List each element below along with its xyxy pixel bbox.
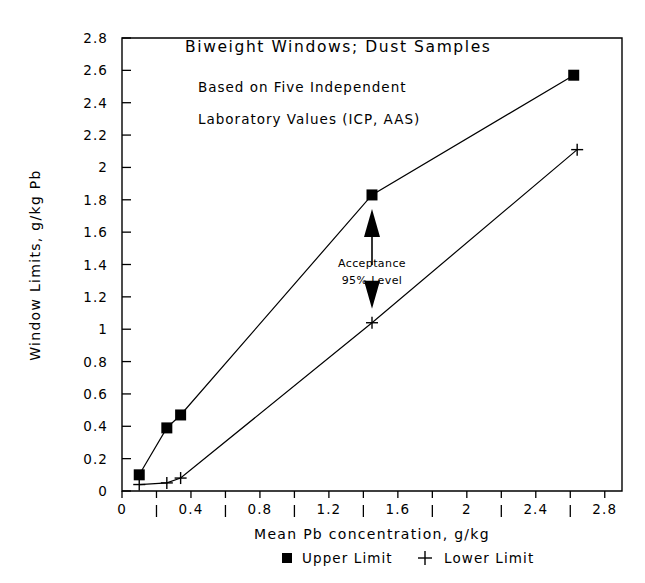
- y-axis-title: Window Limits, g/kg Pb: [27, 169, 43, 361]
- y-tick-label: 2.8: [83, 30, 108, 46]
- y-tick-label: 0.8: [83, 354, 108, 370]
- y-tick-label: 1.2: [83, 289, 108, 305]
- legend-label-upper-limit: Upper Limit: [302, 550, 393, 566]
- y-axis-tick-labels: 00.20.40.60.811.21.41.61.822.22.42.62.8: [83, 30, 108, 499]
- y-tick-label: 0.6: [83, 386, 108, 402]
- data-point-square: [175, 409, 186, 420]
- x-tick-label: 0.8: [248, 501, 273, 517]
- y-tick-label: 1.8: [83, 192, 108, 208]
- x-tick-label: 1.2: [317, 501, 342, 517]
- chart-title: Biweight Windows; Dust Samples: [185, 38, 492, 56]
- y-tick-label: 1.4: [83, 257, 108, 273]
- chart-canvas: 00.40.81.21.622.42.8 00.20.40.60.811.21.…: [0, 0, 645, 583]
- x-tick-label: 2.8: [592, 501, 617, 517]
- legend-label-lower-limit: Lower Limit: [444, 550, 534, 566]
- y-tick-label: 1: [98, 321, 108, 337]
- y-tick-label: 2.4: [83, 95, 108, 111]
- x-tick-label: 1.6: [385, 501, 410, 517]
- y-tick-label: 1.6: [83, 224, 108, 240]
- x-tick-label: 0.4: [179, 501, 204, 517]
- x-tick-label: 0: [117, 501, 127, 517]
- y-tick-label: 0.4: [83, 418, 108, 434]
- y-tick-label: 0.2: [83, 451, 108, 467]
- chart-container: 00.40.81.21.622.42.8 00.20.40.60.811.21.…: [0, 0, 645, 583]
- legend-marker-square: [282, 553, 292, 563]
- data-point-square: [367, 189, 378, 200]
- data-point-square: [568, 70, 579, 81]
- data-point-square: [161, 422, 172, 433]
- x-tick-label: 2: [462, 501, 472, 517]
- y-tick-label: 0: [98, 483, 108, 499]
- x-axis-title: Mean Pb concentration, g/kg: [254, 526, 490, 542]
- annotation-text-line-1: Acceptance: [338, 257, 406, 270]
- chart-subtitle-line-1: Based on Five Independent: [198, 79, 407, 95]
- y-tick-label: 2: [98, 159, 108, 175]
- y-tick-label: 2.2: [83, 127, 108, 143]
- y-tick-label: 2.6: [83, 62, 108, 78]
- x-tick-label: 2.4: [523, 501, 548, 517]
- chart-subtitle-line-2: Laboratory Values (ICP, AAS): [198, 111, 420, 127]
